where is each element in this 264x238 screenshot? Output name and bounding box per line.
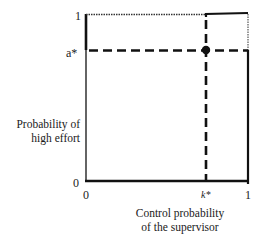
x-tick-k-star: k* bbox=[201, 189, 210, 200]
x-axis-label-line1: Control probability bbox=[120, 206, 240, 220]
y-axis-label-line2: high effort bbox=[0, 131, 80, 145]
y-tick-0: 0 bbox=[73, 176, 79, 190]
x-axis-label-line2: of the supervisor bbox=[120, 220, 240, 234]
top-solid-line bbox=[206, 13, 248, 17]
y-axis-label: Probability of high effort bbox=[0, 117, 80, 145]
equilibrium-dot bbox=[202, 46, 210, 54]
x-tick-0: 0 bbox=[83, 188, 89, 202]
y-tick-a-star: a* bbox=[66, 46, 77, 60]
y-axis-label-line1: Probability of bbox=[0, 117, 80, 131]
x-tick-1: 1 bbox=[245, 188, 251, 202]
x-axis-label: Control probability of the supervisor bbox=[120, 206, 240, 234]
y-tick-1: 1 bbox=[75, 9, 81, 23]
